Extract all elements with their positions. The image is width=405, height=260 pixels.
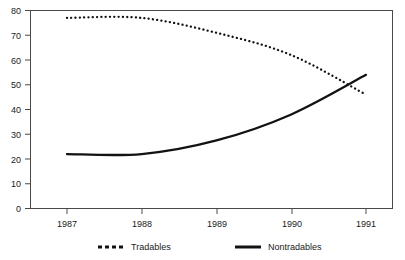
- chart-canvas: 80 70 60 50 40 30 20 10 0 1987 1988 1989…: [0, 0, 405, 260]
- x-tick-label-1990: 1990: [282, 219, 302, 229]
- legend-label-tradables: Tradables: [131, 242, 171, 252]
- series-line-nontradables: [67, 75, 366, 155]
- x-axis-ticks: [67, 209, 366, 215]
- x-tick-label-1991: 1991: [356, 219, 376, 229]
- x-tick-label-1989: 1989: [207, 219, 227, 229]
- y-tick-label-50: 50: [11, 80, 21, 90]
- y-tick-label-70: 70: [11, 31, 21, 41]
- y-tick-label-10: 10: [11, 179, 21, 189]
- x-axis-tick-labels: 1987 1988 1989 1990 1991: [57, 219, 376, 229]
- y-tick-label-40: 40: [11, 105, 21, 115]
- y-tick-label-20: 20: [11, 155, 21, 165]
- plot-area-frame: [31, 11, 393, 209]
- x-tick-label-1988: 1988: [132, 219, 152, 229]
- series-line-tradables: [67, 17, 366, 95]
- y-tick-label-0: 0: [16, 204, 21, 214]
- y-tick-label-60: 60: [11, 56, 21, 66]
- y-axis-tick-labels: 80 70 60 50 40 30 20 10 0: [11, 6, 21, 214]
- chart-legend: Tradables Nontradables: [98, 242, 322, 252]
- legend-label-nontradables: Nontradables: [268, 242, 322, 252]
- line-chart: 80 70 60 50 40 30 20 10 0 1987 1988 1989…: [0, 0, 405, 260]
- y-tick-label-80: 80: [11, 6, 21, 16]
- x-tick-label-1987: 1987: [57, 219, 77, 229]
- y-axis-ticks: [25, 11, 31, 209]
- y-tick-label-30: 30: [11, 130, 21, 140]
